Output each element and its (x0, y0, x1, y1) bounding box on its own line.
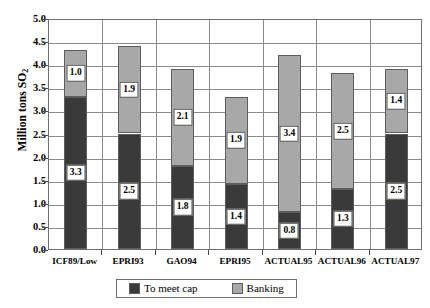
bar-value-label: 2.5 (120, 183, 139, 200)
y-axis-tick-label: 0.5 (6, 222, 46, 232)
bar-group: 1.82.1 (171, 18, 194, 249)
bar-group: 1.41.9 (225, 18, 248, 249)
x-axis-tick-label: ICF89/Low (52, 256, 97, 266)
y-axis-tick-label: 5.0 (6, 14, 46, 24)
y-axis-tick-label: 1.5 (6, 176, 46, 186)
x-axis-tick-label: ACTUAL97 (371, 256, 419, 266)
y-axis-tick-mark (42, 19, 48, 20)
y-axis-tick-label: 2.5 (6, 130, 46, 140)
x-axis-tick-label: ACTUAL96 (318, 256, 366, 266)
bar-group: 3.31.0 (64, 18, 87, 249)
bar-value-label: 1.4 (387, 93, 406, 110)
legend-label-to-meet-cap: To meet cap (144, 282, 198, 294)
y-axis-tick-mark (42, 181, 48, 182)
x-axis-tick-mark (369, 250, 370, 255)
stacked-bar-chart: Million tons SO2 3.31.02.51.91.82.11.41.… (0, 0, 430, 308)
bar-value-label: 3.3 (66, 165, 85, 182)
y-axis-tick-mark (42, 88, 48, 89)
x-axis-tick-mark (315, 250, 316, 255)
gridline-vertical (316, 20, 317, 249)
bar-value-label: 1.4 (227, 208, 246, 225)
y-axis-tick-label: 2.0 (6, 153, 46, 163)
y-axis-tick-mark (42, 42, 48, 43)
x-axis-tick-mark (208, 250, 209, 255)
bar-group: 2.51.4 (385, 18, 408, 249)
bar-group: 2.51.9 (118, 18, 141, 249)
x-axis-tick-label: EPRI95 (219, 256, 250, 266)
bar-value-label: 1.3 (333, 211, 352, 228)
bar-value-label: 2.5 (333, 123, 352, 140)
y-axis-tick-mark (42, 204, 48, 205)
legend-swatch-to-meet-cap (129, 283, 140, 294)
plot-area: 3.31.02.51.91.82.11.41.90.83.41.32.52.51… (48, 19, 422, 250)
bar-value-label: 3.4 (280, 125, 299, 142)
gridline-vertical (370, 20, 371, 249)
y-axis-tick-mark (42, 65, 48, 66)
y-axis-tick-mark (42, 250, 48, 251)
y-axis-tick-mark (42, 158, 48, 159)
y-axis-tick-mark (42, 135, 48, 136)
x-axis-tick-mark (155, 250, 156, 255)
legend-item-to-meet-cap: To meet cap (129, 282, 198, 294)
x-axis-tick-label: GAO94 (167, 256, 197, 266)
bar-group: 1.32.5 (331, 18, 354, 249)
chart-legend: To meet cap Banking (116, 279, 297, 298)
bar-group: 0.83.4 (278, 18, 301, 249)
bar-value-label: 1.9 (120, 81, 139, 98)
x-axis-tick-label: ACTUAL95 (264, 256, 312, 266)
x-axis-tick-mark (262, 250, 263, 255)
bar-value-label: 2.5 (387, 183, 406, 200)
y-axis-tick-mark (42, 227, 48, 228)
y-axis-tick-label: 1.0 (6, 199, 46, 209)
bar-value-label: 1.9 (227, 132, 246, 149)
legend-swatch-banking (232, 283, 243, 294)
bar-value-label: 2.1 (173, 109, 192, 126)
y-axis-tick-label: 0.0 (6, 245, 46, 255)
x-axis-tick-mark (101, 250, 102, 255)
legend-label-banking: Banking (247, 282, 284, 294)
gridline-vertical (263, 20, 264, 249)
legend-item-banking: Banking (232, 282, 284, 294)
bar-value-label: 1.0 (66, 65, 85, 82)
x-axis-tick-label: EPRI93 (113, 256, 144, 266)
y-axis-tick-label: 4.5 (6, 37, 46, 47)
y-axis-tick-label: 3.0 (6, 106, 46, 116)
y-axis-tick-mark (42, 111, 48, 112)
gridline-vertical (209, 20, 210, 249)
bar-value-label: 0.8 (280, 222, 299, 239)
gridline-vertical (102, 20, 103, 249)
y-axis-tick-label: 3.5 (6, 83, 46, 93)
y-axis-tick-label: 4.0 (6, 60, 46, 70)
gridline-vertical (156, 20, 157, 249)
bar-value-label: 1.8 (173, 199, 192, 216)
